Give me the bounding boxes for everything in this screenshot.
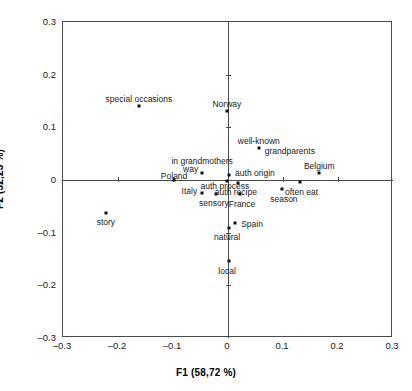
point-label: Spain xyxy=(241,219,263,229)
x-tick-label: 0.3 xyxy=(385,340,398,351)
point-label: special occasions xyxy=(106,94,173,104)
point-label: Poland xyxy=(161,171,187,181)
point-label: sensory xyxy=(199,198,229,208)
y-tick-label: –0.2 xyxy=(14,279,56,290)
x-tick-label: 0.1 xyxy=(275,340,288,351)
point-label: auth origin xyxy=(235,168,275,178)
point-label: France xyxy=(229,199,255,209)
y-tick-label: 0.1 xyxy=(14,121,56,132)
data-point xyxy=(104,212,107,215)
x-tick xyxy=(338,177,339,182)
x-tick-label: 0 xyxy=(224,340,229,351)
point-label: local xyxy=(218,266,235,276)
data-point xyxy=(228,259,231,262)
point-label: natural xyxy=(214,232,240,242)
data-point xyxy=(228,174,231,177)
point-label: season xyxy=(270,194,297,204)
data-point xyxy=(234,221,237,224)
y-tick xyxy=(226,75,231,76)
y-tick-label: 0.2 xyxy=(14,68,56,79)
data-point xyxy=(236,182,239,185)
data-point xyxy=(201,191,204,194)
y-axis-title: F2 (32,23 %) xyxy=(0,149,5,209)
x-tick-label: –0.2 xyxy=(108,340,127,351)
point-label: grandparents xyxy=(265,146,315,156)
data-point xyxy=(298,181,301,184)
y-tick xyxy=(226,285,231,286)
data-point xyxy=(280,188,283,191)
data-point xyxy=(257,146,260,149)
point-label: well-known xyxy=(238,136,280,146)
data-point xyxy=(318,172,321,175)
y-tick-label: 0 xyxy=(14,174,56,185)
point-label: story xyxy=(97,217,115,227)
point-label: Italy xyxy=(182,186,198,196)
point-label: in grandmothers xyxy=(171,156,232,166)
data-point xyxy=(225,110,228,113)
y-tick-label: –0.1 xyxy=(14,226,56,237)
data-point xyxy=(137,105,140,108)
data-point xyxy=(201,172,204,175)
y-tick-label: –0.3 xyxy=(14,332,56,343)
point-label: Belgium xyxy=(304,161,335,171)
x-tick-label: –0.1 xyxy=(163,340,182,351)
point-label: Norway xyxy=(212,99,241,109)
x-axis-title: F1 (58,72 %) xyxy=(0,367,412,378)
x-tick xyxy=(283,177,284,182)
data-point xyxy=(228,226,231,229)
y-tick-label: 0.3 xyxy=(14,16,56,27)
x-tick xyxy=(118,177,119,182)
x-tick-label: 0.2 xyxy=(330,340,343,351)
data-point xyxy=(239,193,242,196)
point-label: auth recipe xyxy=(215,187,257,197)
y-tick xyxy=(226,127,231,128)
scatter-chart: special occasionsNorwaywell-knowngrandpa… xyxy=(0,0,412,391)
plot-area: special occasionsNorwaywell-knowngrandpa… xyxy=(62,21,392,337)
